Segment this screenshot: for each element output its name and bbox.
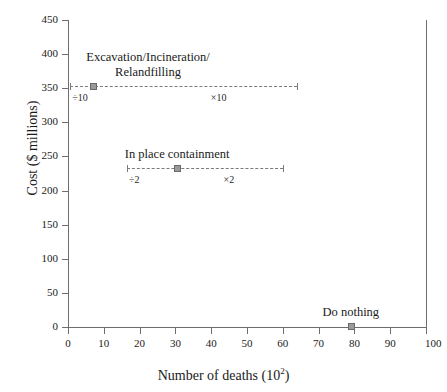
series-label-line: In place containment — [67, 147, 287, 162]
data-point-marker[interactable] — [348, 323, 355, 330]
data-point-marker[interactable] — [90, 83, 97, 90]
y-tick-label: 150 — [42, 219, 59, 230]
x-tick-label: 90 — [380, 337, 400, 349]
series-label: In place containment — [67, 147, 287, 162]
series-label-line: Excavation/Incineration/ — [38, 50, 258, 65]
x-tick-label: 80 — [344, 337, 364, 349]
y-tick-label: 50 — [47, 287, 58, 298]
x-tick-label: 10 — [94, 337, 114, 349]
x-tick-label: 50 — [237, 337, 257, 349]
x-tick-mark — [104, 328, 105, 334]
x-tick-label: 20 — [130, 337, 150, 349]
x-axis-label-tail: ) — [285, 368, 290, 383]
chart-figure: 050100150200250300350400450 010203040506… — [0, 0, 447, 392]
series-label: Do nothing — [241, 305, 447, 320]
x-axis-label: Number of deaths (102) — [0, 366, 447, 384]
x-tick-mark — [283, 328, 284, 334]
error-bar-cap — [297, 83, 298, 90]
error-bar-line — [127, 168, 283, 169]
x-axis-label-text: Number of deaths (10 — [158, 368, 280, 383]
x-tick-mark — [140, 328, 141, 334]
x-tick-mark — [68, 328, 69, 334]
x-tick-mark — [390, 328, 391, 334]
x-tick-label: 70 — [309, 337, 329, 349]
x-tick-mark — [247, 328, 248, 334]
x-tick-label: 30 — [165, 337, 185, 349]
y-tick-label: 250 — [42, 150, 59, 161]
error-bar-cap — [70, 83, 71, 90]
x-tick-label: 40 — [201, 337, 221, 349]
series-label-line: Relandfilling — [38, 65, 258, 80]
upper-bound-label: ×2 — [224, 175, 235, 185]
error-bar-line — [70, 86, 297, 87]
x-tick-mark — [175, 328, 176, 334]
y-axis-label: Cost ($ millions) — [25, 53, 41, 243]
error-bar-cap — [127, 165, 128, 172]
series-label-line: Do nothing — [241, 305, 447, 320]
error-bar-cap — [283, 165, 284, 172]
y-tick-label: 100 — [42, 253, 59, 264]
y-tick-label: 200 — [42, 185, 59, 196]
x-tick-label: 60 — [273, 337, 293, 349]
data-point-marker[interactable] — [174, 165, 181, 172]
plot-area: ÷10×10Excavation/Incineration/Relandfill… — [68, 20, 426, 327]
y-tick-label: 300 — [42, 116, 59, 127]
x-tick-mark — [211, 328, 212, 334]
lower-bound-label: ÷2 — [129, 175, 140, 185]
x-tick-mark — [426, 328, 427, 334]
y-tick-label: 350 — [42, 82, 59, 93]
lower-bound-label: ÷10 — [72, 93, 88, 103]
y-tick-label: 0 — [53, 321, 59, 332]
x-tick-label: 100 — [425, 337, 439, 349]
series-label: Excavation/Incineration/Relandfilling — [38, 50, 258, 80]
x-tick-mark — [319, 328, 320, 334]
upper-bound-label: ×10 — [211, 93, 227, 103]
right-spine — [426, 20, 427, 328]
x-tick-label: 0 — [58, 337, 78, 349]
y-tick-label: 450 — [42, 14, 59, 25]
